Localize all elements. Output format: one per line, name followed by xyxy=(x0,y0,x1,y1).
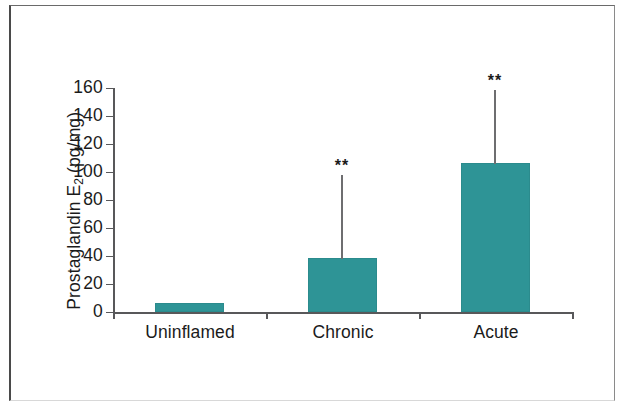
x-category-label-acute: Acute xyxy=(473,322,518,343)
y-tick-label: 100 xyxy=(0,161,103,182)
y-tick-mark xyxy=(106,88,113,89)
significance-marker-chronic: ** xyxy=(335,158,349,174)
x-tick-mark xyxy=(266,312,268,319)
y-tick-mark xyxy=(106,172,113,173)
y-tick-label: 60 xyxy=(0,217,103,238)
y-tick-mark xyxy=(106,284,113,285)
y-tick-label: 120 xyxy=(0,133,103,154)
error-bar-acute xyxy=(494,90,496,164)
figure-container: Prostaglandin E2 (pg/mg) 160 140 120 100… xyxy=(0,0,627,411)
y-tick-label: 20 xyxy=(0,273,103,294)
bar-acute[interactable] xyxy=(461,163,530,312)
bar-chronic[interactable] xyxy=(308,258,377,312)
y-tick-mark xyxy=(106,200,113,201)
x-tick-mark xyxy=(572,312,574,319)
x-axis-line xyxy=(113,312,574,314)
x-category-label-chronic: Chronic xyxy=(312,322,373,343)
bar-uninflamed[interactable] xyxy=(155,303,224,312)
y-tick-mark xyxy=(106,228,113,229)
error-bar-chronic xyxy=(341,175,343,259)
y-tick-mark xyxy=(106,256,113,257)
y-tick-mark xyxy=(106,312,113,313)
y-tick-mark xyxy=(106,144,113,145)
y-tick-label: 160 xyxy=(0,77,103,98)
y-tick-label: 140 xyxy=(0,105,103,126)
x-tick-mark xyxy=(113,312,115,319)
y-axis-line xyxy=(113,88,115,313)
y-tick-label: 40 xyxy=(0,245,103,266)
y-tick-mark xyxy=(106,116,113,117)
y-tick-label: 80 xyxy=(0,189,103,210)
bar-chart: Prostaglandin E2 (pg/mg) 160 140 120 100… xyxy=(0,0,627,411)
significance-marker-acute: ** xyxy=(488,73,502,89)
x-category-label-uninflamed: Uninflamed xyxy=(145,322,235,343)
x-tick-mark xyxy=(419,312,421,319)
y-tick-label: 0 xyxy=(0,301,103,322)
